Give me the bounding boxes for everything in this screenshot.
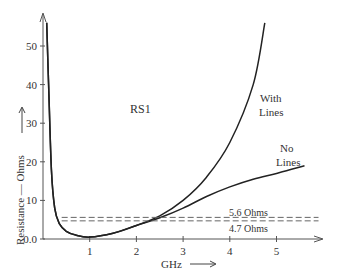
with-lines-label-2: Lines: [259, 106, 283, 118]
series-no-lines: [47, 23, 305, 237]
curves: [47, 23, 319, 237]
with-lines-label: With: [260, 92, 282, 104]
x-tick-label: 5: [274, 245, 280, 257]
y-tick-label: 40: [26, 79, 38, 91]
y-tick-label: 30: [26, 117, 38, 129]
resistance-chart: 0.0102030405012345 RS1 With Lines No Lin…: [0, 0, 337, 280]
y-tick-label: 10: [26, 194, 38, 206]
x-tick-label: 1: [87, 245, 93, 257]
no-lines-label: No: [280, 142, 294, 154]
rs1-label: RS1: [130, 102, 151, 116]
x-tick-label: 4: [227, 245, 233, 257]
x-tick-label: 3: [180, 245, 186, 257]
no-lines-label-2: Lines: [276, 156, 300, 168]
x-axis-arrow-icon: [190, 261, 216, 267]
x-tick-label: 2: [134, 245, 140, 257]
y-axis-label: Resistance — Ohms: [14, 155, 26, 245]
y-tick-label: 20: [26, 156, 38, 168]
ref-5.6-label: 5.6 Ohms: [229, 207, 268, 218]
series-with-lines: [47, 23, 265, 237]
y-tick-label: 50: [26, 40, 38, 52]
y-axis-arrow-icon: [19, 107, 25, 133]
ref-4.7-label: 4.7 Ohms: [229, 223, 268, 234]
x-axis-label: GHz: [161, 258, 182, 270]
